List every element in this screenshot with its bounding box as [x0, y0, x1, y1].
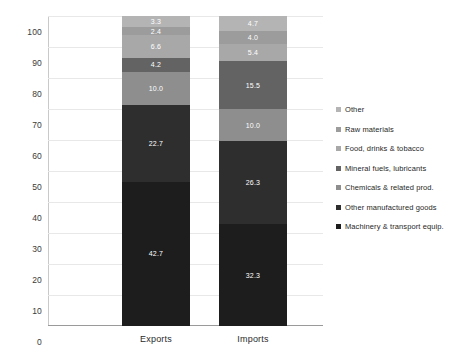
legend-swatch-icon — [336, 224, 341, 229]
legend-item[interactable]: Food, drinks & tobacco — [336, 139, 456, 159]
bar-segment-value: 15.5 — [246, 82, 260, 89]
chart-legend: OtherRaw materialsFood, drinks & tobacco… — [336, 100, 456, 237]
bar-segment[interactable]: 26.3 — [219, 141, 287, 224]
bar-segment-value: 10.0 — [246, 122, 260, 129]
legend-label: Chemicals & related prod. — [345, 183, 434, 192]
legend-swatch-icon — [336, 205, 341, 210]
legend-item[interactable]: Raw materials — [336, 120, 456, 140]
y-tick-label: 70 — [32, 120, 42, 130]
bar-segment[interactable]: 4.2 — [122, 58, 190, 72]
y-axis: 0102030405060708090100 — [8, 16, 42, 326]
legend-swatch-icon — [336, 185, 341, 190]
legend-item[interactable]: Other — [336, 100, 456, 120]
bar-segment-value: 10.0 — [149, 85, 163, 92]
bar-segment[interactable]: 10.0 — [122, 72, 190, 106]
bar-segment[interactable]: 5.4 — [219, 44, 287, 61]
bar-segment[interactable]: 22.7 — [122, 105, 190, 182]
bar-segment[interactable]: 10.0 — [219, 109, 287, 141]
bar-segment-value: 26.3 — [246, 179, 260, 186]
bar-segment[interactable]: 42.7 — [122, 182, 190, 326]
legend-item[interactable]: Chemicals & related prod. — [336, 178, 456, 198]
legend-label: Other — [345, 105, 364, 114]
y-tick-label: 20 — [32, 275, 42, 285]
y-tick-label: 30 — [32, 244, 42, 254]
legend-label: Food, drinks & tobacco — [345, 144, 424, 153]
bar-segment[interactable]: 3.3 — [122, 16, 190, 27]
bar-segment-value: 32.3 — [246, 272, 260, 279]
bar-segment-value: 2.4 — [151, 28, 161, 35]
legend-label: Other manufactured goods — [345, 203, 437, 212]
bar-segment-value: 42.7 — [149, 250, 163, 257]
legend-item[interactable]: Other manufactured goods — [336, 198, 456, 218]
stacked-bar-chart: 0102030405060708090100 42.722.710.04.26.… — [0, 0, 459, 355]
bar-segment[interactable]: 15.5 — [219, 61, 287, 110]
plot-area: 42.722.710.04.26.62.43.332.326.310.015.5… — [48, 16, 323, 326]
bar-segment-value: 6.6 — [151, 43, 161, 50]
legend-swatch-icon — [336, 166, 341, 171]
legend-item[interactable]: Machinery & transport equip. — [336, 217, 456, 237]
bar-exports[interactable]: 42.722.710.04.26.62.43.3 — [122, 16, 190, 326]
y-tick-label: 100 — [27, 27, 42, 37]
x-tick-label: Exports — [116, 334, 196, 344]
legend-label: Machinery & transport equip. — [345, 222, 444, 231]
y-tick-label: 80 — [32, 89, 42, 99]
bar-segment-value: 4.2 — [151, 61, 161, 68]
legend-item[interactable]: Mineral fuels, lubricants — [336, 159, 456, 179]
bar-segment-value: 4.0 — [248, 34, 258, 41]
legend-swatch-icon — [336, 127, 341, 132]
legend-swatch-icon — [336, 146, 341, 151]
y-tick-label: 40 — [32, 213, 42, 223]
y-tick-label: 0 — [37, 337, 42, 347]
y-tick-label: 90 — [32, 58, 42, 68]
bar-segment-value: 4.7 — [248, 20, 258, 27]
legend-label: Mineral fuels, lubricants — [345, 164, 426, 173]
bar-segment-value: 5.4 — [248, 49, 258, 56]
y-tick-label: 50 — [32, 182, 42, 192]
x-tick-label: Imports — [213, 334, 293, 344]
legend-label: Raw materials — [345, 125, 394, 134]
bar-segment-value: 3.3 — [151, 18, 161, 25]
legend-swatch-icon — [336, 107, 341, 112]
bar-segment[interactable]: 32.3 — [219, 224, 287, 326]
bar-segment[interactable]: 4.7 — [219, 16, 287, 31]
bar-imports[interactable]: 32.326.310.015.55.44.04.7 — [219, 16, 287, 326]
bar-segment[interactable]: 4.0 — [219, 31, 287, 44]
bar-segment[interactable]: 6.6 — [122, 35, 190, 57]
bar-segment[interactable]: 2.4 — [122, 27, 190, 35]
bar-segment-value: 22.7 — [149, 140, 163, 147]
y-tick-label: 60 — [32, 151, 42, 161]
y-tick-label: 10 — [32, 306, 42, 316]
